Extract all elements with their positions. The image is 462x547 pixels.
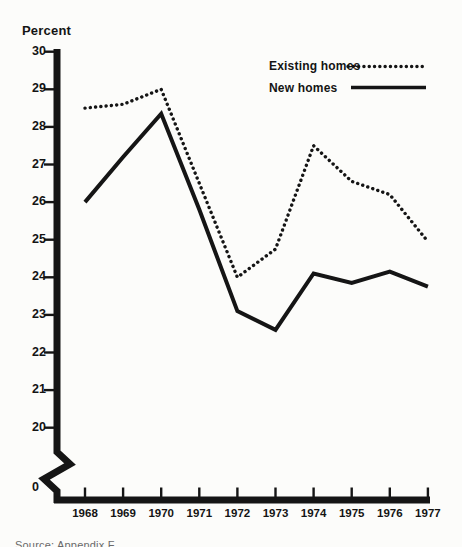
y-axis-label: 29 bbox=[6, 81, 46, 95]
new-homes-line bbox=[85, 114, 428, 330]
chart-canvas bbox=[0, 0, 462, 547]
legend-label-new-homes: New homes bbox=[269, 81, 338, 95]
y-axis-label: 23 bbox=[6, 307, 46, 321]
y-axis-label: 24 bbox=[6, 269, 46, 283]
y-axis-zero-label: 0 bbox=[6, 480, 39, 494]
legend-label-existing-homes: Existing homes bbox=[269, 59, 361, 73]
source-note: Source: Appendix F bbox=[15, 539, 115, 547]
y-axis-label: 20 bbox=[6, 420, 46, 434]
y-axis-label: 22 bbox=[6, 345, 46, 359]
y-axis-label: 30 bbox=[6, 44, 46, 58]
y-axis-label: 28 bbox=[6, 119, 46, 133]
y-axis-label: 25 bbox=[6, 232, 46, 246]
y-axis-label: 27 bbox=[6, 157, 46, 171]
x-axis-label: 1977 bbox=[405, 507, 451, 519]
y-axis-line bbox=[44, 49, 70, 503]
existing-homes-line bbox=[85, 89, 428, 277]
y-axis-label: 26 bbox=[6, 194, 46, 208]
y-axis-label: 21 bbox=[6, 382, 46, 396]
